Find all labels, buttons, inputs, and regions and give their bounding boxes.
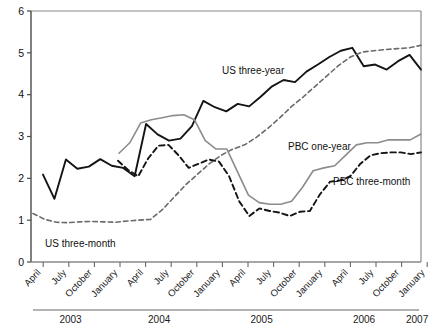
us-three-year-label: US three-year	[222, 65, 285, 76]
y-axis-tick-label: 5	[18, 47, 24, 59]
y-axis-tick-label: 4	[18, 88, 24, 100]
pbc-three-month-label: PBC three-month	[333, 176, 410, 187]
y-axis-tick-label: 2	[18, 172, 24, 184]
us-three-month-label: US three-month	[45, 238, 116, 249]
y-axis-tick-label: 0	[18, 256, 24, 268]
year-group-label: 2007	[406, 314, 429, 325]
year-group-label: 2005	[250, 314, 273, 325]
year-group-label: 2003	[59, 314, 82, 325]
year-group-label: 2004	[148, 314, 171, 325]
year-group-label: 2006	[353, 314, 376, 325]
interest-rate-line-chart: 0123456 AprilJulyOctoberJanuaryAprilJuly…	[0, 0, 438, 335]
y-axis-tick-label: 1	[18, 214, 24, 226]
y-axis-tick-label: 6	[18, 5, 24, 17]
y-axis-tick-label: 3	[18, 130, 24, 142]
pbc-one-year-label: PBC one-year	[288, 141, 351, 152]
chart-canvas: 0123456 AprilJulyOctoberJanuaryAprilJuly…	[0, 0, 438, 335]
